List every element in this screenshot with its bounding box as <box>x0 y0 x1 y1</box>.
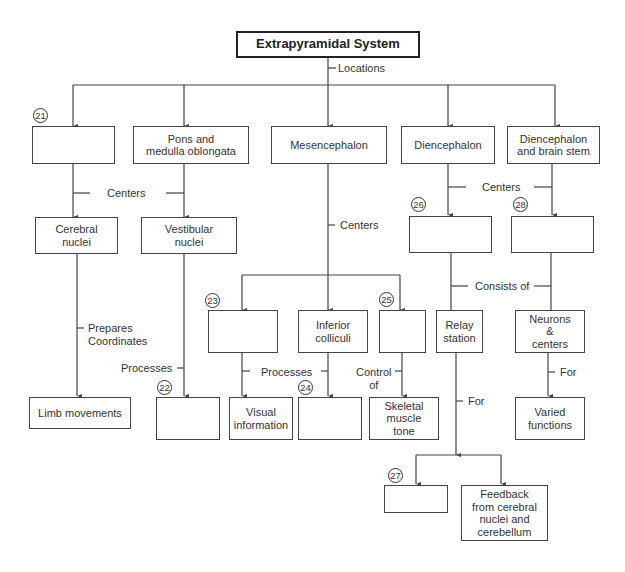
link-label-centers-left: Centers <box>107 187 146 200</box>
node-feedback: Feedback from cerebral nuclei and cerebe… <box>461 485 548 541</box>
number-badge-24: 24 <box>298 380 313 395</box>
blank-box-26[interactable] <box>409 216 492 253</box>
number-badge-27: 27 <box>388 468 403 483</box>
link-label-processes-left: Processes <box>121 362 172 375</box>
blank-box-22[interactable] <box>156 397 220 440</box>
node-diencephalon-brain-stem: Diencephalon and brain stem <box>507 126 600 164</box>
number-badge-21: 21 <box>33 108 48 123</box>
node-varied-functions: Varied functions <box>515 397 585 440</box>
blank-box-23[interactable] <box>208 310 278 353</box>
node-inferior-colliculi: Inferior colliculi <box>298 310 368 353</box>
node-limb-movements: Limb movements <box>29 397 131 429</box>
blank-box-25[interactable] <box>379 310 426 353</box>
blank-box-28[interactable] <box>511 216 594 253</box>
title-box: Extrapyramidal System <box>236 31 420 58</box>
link-label-prepares: Prepares Coordinates <box>88 322 147 347</box>
link-label-centers-mid: Centers <box>340 219 379 232</box>
number-badge-28: 28 <box>513 197 528 212</box>
blank-box-27[interactable] <box>384 485 448 513</box>
link-label-for-neurons: For <box>560 366 577 379</box>
node-relay-station: Relay station <box>436 310 483 353</box>
number-badge-22: 22 <box>157 380 172 395</box>
number-badge-26: 26 <box>411 197 426 212</box>
node-neurons-centers: Neurons & centers <box>515 310 585 353</box>
node-pons-medulla: Pons and medulla oblongata <box>133 126 249 164</box>
node-visual-information: Visual information <box>229 397 293 440</box>
blank-box-24[interactable] <box>298 397 362 440</box>
node-diencephalon: Diencephalon <box>401 126 495 164</box>
node-vestibular-nuclei: Vestibular nuclei <box>141 217 237 254</box>
node-mesencephalon: Mesencephalon <box>271 126 387 164</box>
number-badge-25: 25 <box>379 292 394 307</box>
link-label-processes-mid: Processes <box>261 366 312 379</box>
link-label-consists-of: Consists of <box>475 280 529 293</box>
link-label-control-of: Control of <box>356 366 391 391</box>
number-badge-23: 23 <box>205 293 220 308</box>
node-skeletal-muscle-tone: Skeletal muscle tone <box>369 397 439 440</box>
link-label-locations: Locations <box>338 62 385 75</box>
concept-map: Extrapyramidal System Locations Centers … <box>0 0 625 572</box>
node-cerebral-nuclei: Cerebral nuclei <box>35 217 118 254</box>
link-label-centers-right: Centers <box>482 181 521 194</box>
blank-box-21[interactable] <box>32 126 115 164</box>
link-label-for-relay: For <box>468 395 485 408</box>
